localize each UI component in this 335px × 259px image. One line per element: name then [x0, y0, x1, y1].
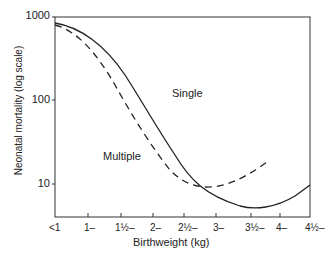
x-tick-2-5: 2½–: [178, 222, 197, 233]
x-tick-2: 2–: [150, 222, 161, 233]
y-axis-label: Neonatal mortality (log scale): [13, 31, 24, 191]
x-tick-1: 1–: [84, 222, 95, 233]
chart-plot: [0, 0, 335, 259]
plot-frame: [55, 17, 310, 217]
annotation-multiple: Multiple: [103, 150, 141, 162]
x-tick-4: 4–: [276, 222, 287, 233]
y-tick-1000: 1000: [10, 9, 50, 21]
x-tick-3: 3–: [213, 222, 224, 233]
x-tick-3-5: 3½–: [245, 222, 264, 233]
x-tick-4-5: 4½–: [305, 222, 324, 233]
x-tick-lt1: <1: [49, 222, 60, 233]
annotation-single: Single: [172, 87, 203, 99]
x-tick-1-5: 1½–: [115, 222, 134, 233]
x-axis-label: Birthweight (kg): [133, 236, 209, 248]
series-multiple-line: [55, 25, 270, 187]
